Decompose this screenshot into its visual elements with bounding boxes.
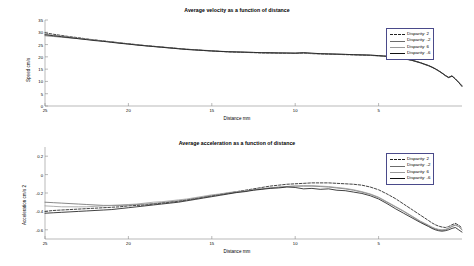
legend-item-label: Disparity: -6: [407, 175, 430, 181]
chart-panel-acceleration: Average acceleration as a function of di…: [0, 133, 474, 266]
acceleration-x-tick-label: 5: [377, 241, 379, 246]
figure-canvas: Average velocity as a function of distan…: [0, 0, 474, 266]
velocity-y-tick-label: 20: [29, 54, 43, 59]
velocity-y-tick-label: 5: [29, 91, 43, 96]
velocity-y-tick-label: 35: [29, 18, 43, 23]
velocity-y-tick-label: 25: [29, 42, 43, 47]
velocity-y-tick-label: 30: [29, 30, 43, 35]
acceleration-y-tick-label: -0.6: [29, 227, 43, 232]
velocity-y-tick-label: 15: [29, 67, 43, 72]
acceleration-x-tick-label: 10: [293, 241, 298, 246]
velocity-y-tick-label: 10: [29, 79, 43, 84]
legend-item-3[interactable]: Disparity: -6: [390, 50, 430, 56]
acceleration-series-line: [45, 186, 462, 230]
legend-line-sample-icon: [390, 44, 405, 50]
legend-line-sample-icon: [390, 156, 405, 162]
acceleration-y-tick-label: -0.2: [29, 191, 43, 196]
velocity-x-tick-label: 5: [377, 108, 379, 113]
legend-item-label: Disparity: -6: [407, 50, 430, 56]
acceleration-x-tick-label: 25: [43, 241, 48, 246]
velocity-y-tick-label: 0: [29, 104, 43, 109]
chart-panel-velocity: Average velocity as a function of distan…: [0, 0, 474, 133]
acceleration-y-tick-label: 0: [29, 172, 43, 177]
velocity-legend[interactable]: Disparity: 2Disparity: -2Disparity: 6Dis…: [386, 28, 434, 60]
acceleration-x-axis-label: Distance mm: [0, 249, 474, 254]
velocity-x-tick-label: 25: [43, 108, 48, 113]
legend-line-sample-icon: [390, 163, 405, 169]
acceleration-y-tick-label: -0.4: [29, 209, 43, 214]
legend-line-sample-icon: [390, 31, 405, 37]
legend-line-sample-icon: [390, 38, 405, 44]
legend-line-sample-icon: [390, 169, 405, 175]
velocity-x-tick-label: 15: [209, 108, 214, 113]
legend-line-sample-icon: [390, 50, 405, 56]
acceleration-y-tick-label: 0.2: [29, 154, 43, 159]
acceleration-series-line: [45, 187, 462, 232]
legend-line-sample-icon: [390, 175, 405, 181]
acceleration-x-tick-label: 15: [209, 241, 214, 246]
velocity-plot-area: [0, 0, 474, 133]
legend-item-3[interactable]: Disparity: -6: [390, 175, 430, 181]
acceleration-y-axis-label: Acceleration cm/s 2: [22, 185, 27, 225]
acceleration-legend[interactable]: Disparity: 2Disparity: -2Disparity: 6Dis…: [386, 153, 434, 185]
velocity-x-tick-label: 20: [126, 108, 131, 113]
acceleration-x-tick-label: 20: [126, 241, 131, 246]
velocity-x-axis-label: Distance mm: [0, 116, 474, 121]
velocity-x-tick-label: 10: [293, 108, 298, 113]
